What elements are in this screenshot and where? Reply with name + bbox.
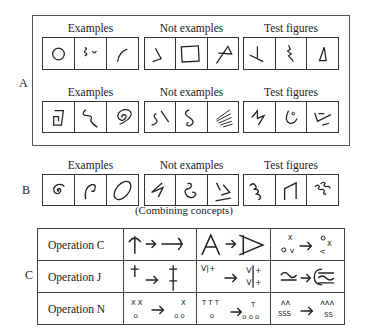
- svg-text:<: <: [319, 247, 326, 256]
- a-row2-header-examples: Examples: [42, 86, 139, 98]
- op-j-example-3: [271, 261, 345, 293]
- figure-arc: [107, 38, 138, 69]
- figure-square-spiral: [43, 102, 75, 132]
- a-row2-examples-group: [42, 101, 139, 133]
- figure-double-wiggle: [307, 175, 338, 205]
- op-j-example-2: V|+VV++: [197, 261, 271, 293]
- a-row2-not-examples-group: [144, 101, 239, 133]
- svg-text:ᴧᴧᴧ: ᴧᴧᴧ: [320, 298, 334, 307]
- svg-text:SS: SS: [324, 311, 333, 319]
- operation-row-n: Operation N X XoXo o T T ToTo o o ᴧᴧSSSᴧ…: [38, 293, 345, 325]
- a-row2-test-figures-group: [243, 101, 339, 133]
- a-row1-examples-group: [42, 37, 139, 70]
- figure-square: [176, 38, 207, 69]
- svg-text:V: V: [247, 266, 253, 275]
- svg-text:SSS: SSS: [278, 310, 291, 318]
- svg-text:V|+: V|+: [201, 264, 216, 273]
- svg-text:o o: o o: [174, 312, 185, 320]
- panel-b-label: B: [22, 183, 30, 198]
- svg-text:o: o: [133, 312, 137, 320]
- figure-hook-curve: [75, 175, 107, 205]
- operation-row-c: Operation C Xv<X: [38, 229, 345, 261]
- svg-text:X: X: [327, 240, 332, 248]
- op-n-example-3: ᴧᴧSSSᴧᴧᴧSS: [271, 293, 345, 325]
- figure-squiggle-and-cup: [75, 38, 107, 69]
- svg-text:T T T: T T T: [201, 299, 220, 307]
- operation-name: Operation C: [38, 229, 124, 261]
- svg-text:+: +: [255, 278, 262, 287]
- figure-angle-with-dashes: [307, 102, 338, 132]
- figure-hook-with-dot: [276, 102, 308, 132]
- b-header-examples: Examples: [42, 159, 139, 171]
- svg-text:X: X: [288, 234, 293, 242]
- svg-text:+: +: [255, 266, 262, 275]
- figure-open-angle: [145, 38, 176, 69]
- figure-open-trapezoid: [276, 175, 308, 205]
- operation-name: Operation N: [38, 293, 124, 325]
- figure-inverted-t-angle: [244, 38, 276, 69]
- b-not-examples-group: [144, 174, 239, 206]
- b-examples-group: [42, 174, 139, 206]
- op-n-example-1: X XoXo o: [123, 293, 197, 325]
- a-row1-header-test-figures: Test figures: [243, 22, 339, 34]
- panel-c-label: C: [25, 268, 33, 283]
- b-header-test-figures: Test figures: [243, 159, 339, 171]
- figure-round-spiral: [107, 102, 138, 132]
- a-row1-header-not-examples: Not examples: [144, 22, 239, 34]
- operations-table: Operation C Xv<X Operation J V|+VV++ Ope…: [37, 228, 345, 325]
- op-j-example-1: [123, 261, 197, 293]
- op-c-example-2: [197, 229, 271, 261]
- svg-text:v: v: [290, 246, 295, 255]
- figure-wavy-line: [75, 102, 107, 132]
- svg-text:ᴧᴧ: ᴧᴧ: [281, 298, 291, 307]
- svg-text:V: V: [247, 278, 253, 287]
- a-row1-test-figures-group: [243, 37, 339, 70]
- operation-row-j: Operation J V|+VV++: [38, 261, 345, 293]
- figure-chevron-and-line: [208, 175, 238, 205]
- op-c-example-3: Xv<X: [271, 229, 345, 261]
- a-row2-header-test-figures: Test figures: [243, 86, 339, 98]
- a-row1-not-examples-group: [144, 37, 239, 70]
- svg-text:o: o: [210, 312, 214, 320]
- svg-text:X: X: [181, 299, 186, 307]
- b-test-figures-group: [243, 174, 339, 206]
- svg-text:X X: X X: [130, 299, 142, 307]
- svg-text:o o o: o o o: [243, 313, 260, 321]
- panel-b-caption: (Combining concepts): [0, 204, 368, 216]
- a-row1-header-examples: Examples: [42, 22, 139, 34]
- a-row2-header-not-examples: Not examples: [144, 86, 239, 98]
- figure-crossed-loop: [208, 38, 238, 69]
- figure-s-curve-and-slash: [145, 102, 176, 132]
- figure-lightning: [145, 175, 176, 205]
- figure-zigzag-squiggle: [276, 38, 308, 69]
- op-c-example-1: [123, 229, 197, 261]
- figure-triangle: [307, 38, 338, 69]
- figure-spiral: [43, 175, 75, 205]
- figure-ellipse: [107, 175, 138, 205]
- operation-name: Operation J: [38, 261, 124, 293]
- b-header-not-examples: Not examples: [144, 159, 239, 171]
- panel-a-label: A: [19, 76, 28, 91]
- figure-wiggle: [244, 175, 276, 205]
- figure-parallel-lines: [208, 102, 238, 132]
- op-n-example-2: T T ToTo o o: [197, 293, 271, 325]
- figure-zigzag: [244, 102, 276, 132]
- figure-circle: [43, 38, 75, 69]
- figure-double-curl: [176, 175, 207, 205]
- figure-double-hook: [176, 102, 207, 132]
- svg-text:T: T: [250, 301, 256, 309]
